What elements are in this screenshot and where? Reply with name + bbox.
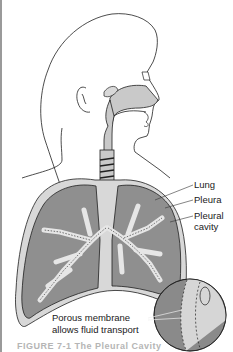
magnified-inset <box>154 279 226 351</box>
label-porous-membrane-1: Porous membrane <box>52 313 130 323</box>
label-porous-membrane-2: allows fluid transport <box>52 325 139 335</box>
label-pleural-cavity-2: cavity <box>194 222 218 232</box>
label-pleura: Pleura <box>194 195 221 205</box>
ear <box>77 87 90 112</box>
lips <box>144 112 148 127</box>
figure-caption: FIGURE 7-1 The Pleural Cavity <box>17 341 162 351</box>
respiratory-diagram: Lung Pleura Pleural cavity Porous membra… <box>0 0 233 352</box>
label-pleural-cavity-1: Pleural <box>194 211 224 221</box>
neck-outline <box>22 128 62 178</box>
label-lung: Lung <box>194 180 215 190</box>
anatomy-illustration <box>0 0 233 352</box>
nose-tip <box>142 72 150 80</box>
